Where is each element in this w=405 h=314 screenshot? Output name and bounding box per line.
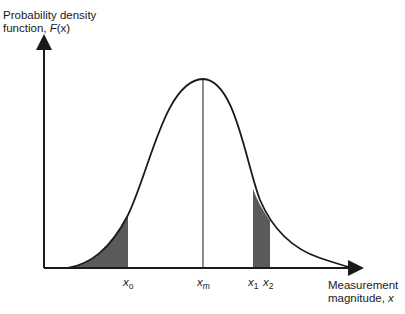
marker-xm: xm	[197, 276, 210, 293]
shaded-region-left-tail	[68, 215, 128, 268]
x-axis-label-line2: magnitude, x	[328, 292, 398, 305]
x-axis-label-line1: Measurement	[328, 279, 398, 292]
marker-x0: xo	[123, 276, 133, 293]
marker-x1: x1	[248, 276, 258, 293]
y-axis-label-line2: function, F(x)	[3, 22, 96, 35]
x-axis-label: Measurement magnitude, x	[328, 279, 398, 305]
y-axis-label-line1: Probability density	[3, 9, 96, 22]
marker-x2: x2	[263, 276, 273, 293]
pdf-diagram	[0, 0, 405, 314]
bell-curve	[68, 79, 352, 268]
shaded-region-x1-x2	[253, 189, 270, 268]
y-axis-label: Probability density function, F(x)	[3, 9, 96, 35]
